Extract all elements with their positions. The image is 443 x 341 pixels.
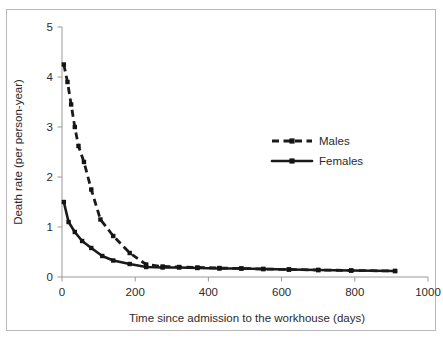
series-line-males <box>64 65 395 272</box>
data-point-females <box>160 265 164 269</box>
legend-label-females: Females <box>319 155 363 167</box>
data-point-females <box>217 266 221 270</box>
x-tick-label: 800 <box>345 286 364 298</box>
data-point-males <box>62 62 66 66</box>
data-point-females <box>62 200 66 204</box>
data-point-females <box>393 269 397 273</box>
data-point-males <box>111 234 115 238</box>
data-point-females <box>144 265 148 269</box>
data-point-females <box>316 268 320 272</box>
data-point-males <box>69 102 73 106</box>
series-group <box>62 62 398 273</box>
y-tick-label: 2 <box>47 171 53 183</box>
data-point-males <box>65 80 69 84</box>
data-point-females <box>349 268 353 272</box>
data-point-females <box>261 267 265 271</box>
x-axis-title: Time since admission to the workhouse (d… <box>129 312 365 324</box>
data-point-males <box>82 160 86 164</box>
data-point-females <box>195 266 199 270</box>
legend-label-males: Males <box>319 135 350 147</box>
y-tick-label: 1 <box>47 221 53 233</box>
data-point-females <box>239 266 243 270</box>
legend-marker-males <box>289 138 294 143</box>
x-tick-label: 200 <box>126 286 145 298</box>
data-point-females <box>128 262 132 266</box>
data-point-females <box>80 239 84 243</box>
data-point-females <box>111 258 115 262</box>
x-tick-label: 600 <box>272 286 291 298</box>
data-point-males <box>73 125 77 129</box>
chart-figure: 01234502004006008001000 MalesFemales Dea… <box>0 0 443 341</box>
data-point-females <box>89 246 93 250</box>
legend-group: MalesFemales <box>272 135 363 167</box>
chart-canvas: 01234502004006008001000 MalesFemales Dea… <box>0 0 443 341</box>
data-point-females <box>100 254 104 258</box>
x-tick-label: 0 <box>59 286 65 298</box>
legend-marker-females <box>289 158 294 163</box>
x-tick-label: 400 <box>199 286 218 298</box>
x-tick-label: 1000 <box>415 286 441 298</box>
data-point-males <box>76 144 80 148</box>
data-point-females <box>287 267 291 271</box>
data-point-females <box>73 230 77 234</box>
data-point-females <box>66 220 70 224</box>
y-tick-label: 4 <box>47 71 54 83</box>
y-tick-label: 0 <box>47 271 53 283</box>
y-axis-title: Death rate (per person-year) <box>12 79 24 225</box>
y-tick-label: 3 <box>47 121 53 133</box>
data-point-males <box>128 251 132 255</box>
data-point-males <box>98 217 102 221</box>
data-point-females <box>177 265 181 269</box>
data-point-males <box>89 187 93 191</box>
y-tick-label: 5 <box>47 21 53 33</box>
